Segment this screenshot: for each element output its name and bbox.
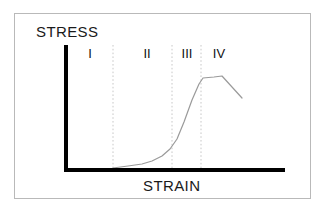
region-label-iii: III (178, 46, 196, 61)
region-divider-lines (113, 45, 201, 169)
region-label-i: I (82, 46, 98, 61)
stress-strain-curve (113, 76, 242, 168)
y-axis-title: STRESS (36, 23, 98, 40)
x-axis-title: STRAIN (143, 177, 200, 194)
stress-strain-diagram-screenshot: STRESS STRAIN I II III IV (0, 0, 326, 212)
region-label-iv: IV (209, 46, 229, 61)
region-label-ii: II (139, 46, 155, 61)
